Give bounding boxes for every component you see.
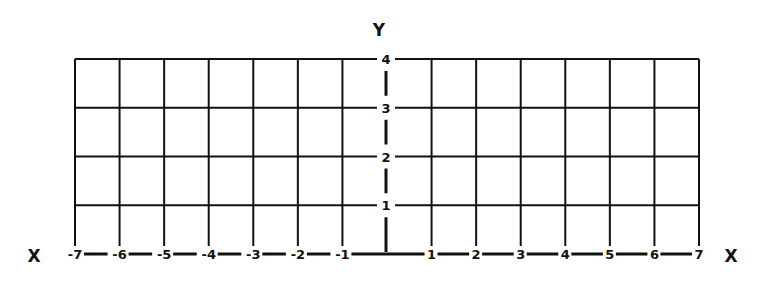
y-tick-label: 3 xyxy=(381,101,390,116)
x-tick-label: -1 xyxy=(335,247,349,262)
y-axis-label: Y xyxy=(372,20,386,40)
x-tick-label: -2 xyxy=(291,247,305,262)
x-tick-label: 6 xyxy=(650,247,659,262)
x-axis-label-left: X xyxy=(27,246,40,266)
x-tick-label: -7 xyxy=(68,247,82,262)
x-tick-label: 4 xyxy=(561,247,570,262)
x-tick-label: 1 xyxy=(427,247,436,262)
x-tick-label: 2 xyxy=(472,247,481,262)
x-tick-label: -3 xyxy=(246,247,260,262)
y-tick-label: 2 xyxy=(381,150,390,165)
x-axis-label-right: X xyxy=(724,246,737,266)
x-tick-label: 7 xyxy=(694,247,703,262)
coordinate-grid: 1234-7-6-5-4-3-2-11234567 X X Y xyxy=(0,0,768,283)
x-tick-label: -5 xyxy=(157,247,171,262)
x-tick-label: -4 xyxy=(201,247,215,262)
x-tick-label: 3 xyxy=(516,247,525,262)
x-tick-label: -6 xyxy=(112,247,126,262)
x-tick-label: 5 xyxy=(605,247,614,262)
y-tick-label: 1 xyxy=(381,198,390,213)
y-tick-label: 4 xyxy=(381,52,390,67)
